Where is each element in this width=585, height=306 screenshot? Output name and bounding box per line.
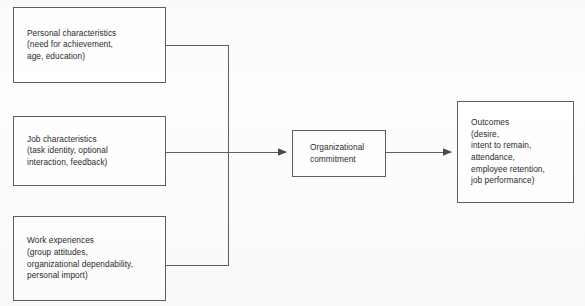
node-organizational-commitment: Organizational commitment xyxy=(292,130,386,177)
arrowhead-into-commitment xyxy=(278,148,287,156)
node-outcomes: Outcomes (desire, intent to remain, atte… xyxy=(457,101,574,203)
node-work-experiences: Work experiences (group attitudes, organ… xyxy=(13,216,166,301)
node-organizational-commitment-label: Organizational commitment xyxy=(293,142,364,165)
node-work-experiences-label: Work experiences (group attitudes, organ… xyxy=(14,235,133,281)
node-personal-characteristics-label: Personal characteristics (need for achie… xyxy=(14,28,116,63)
node-job-characteristics: Job characteristics (task identity, opti… xyxy=(13,116,166,186)
node-outcomes-label: Outcomes (desire, intent to remain, atte… xyxy=(458,117,545,187)
connector-personal-to-commitment xyxy=(166,45,228,152)
arrowhead-into-outcomes xyxy=(443,148,452,156)
node-job-characteristics-label: Job characteristics (task identity, opti… xyxy=(14,134,108,169)
connector-work-to-commitment xyxy=(166,152,228,265)
diagram-canvas: Personal characteristics (need for achie… xyxy=(0,0,585,306)
node-personal-characteristics: Personal characteristics (need for achie… xyxy=(13,7,166,83)
